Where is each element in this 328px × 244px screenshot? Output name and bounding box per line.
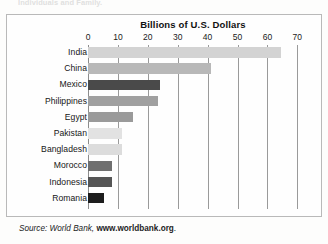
bar-philippines	[88, 96, 158, 106]
bar-row: Romania	[7, 191, 323, 207]
x-tick-label-10: 10	[113, 32, 122, 42]
category-label-romania: Romania	[0, 193, 87, 203]
category-label-egypt: Egypt	[0, 112, 87, 122]
bar-row: Pakistan	[7, 126, 323, 142]
chart-page: Individuals and Family. Billions of U.S.…	[0, 0, 328, 244]
bar-morocco	[88, 161, 112, 171]
bar-row: Egypt	[7, 110, 323, 126]
cropped-text-fragment: Individuals and Family.	[18, 0, 188, 7]
bar-pakistan	[88, 128, 122, 138]
bar-india	[88, 47, 281, 57]
bar-rows: IndiaChinaMexicoPhilippinesEgyptPakistan…	[7, 45, 323, 207]
bar-row: Mexico	[7, 77, 323, 93]
bar-row: China	[7, 61, 323, 77]
category-label-pakistan: Pakistan	[0, 128, 87, 138]
chart-frame: Billions of U.S. Dollars 010203040506070…	[6, 14, 322, 217]
x-tick-label-60: 60	[263, 32, 272, 42]
bar-row: Indonesia	[7, 175, 323, 191]
bar-row: Morocco	[7, 158, 323, 174]
source-label: Source: World Bank,	[19, 224, 94, 233]
x-tick-label-70: 70	[293, 32, 302, 42]
x-axis-tick-labels: 010203040506070	[7, 32, 323, 44]
source-period: .	[174, 224, 176, 233]
bar-mexico	[88, 80, 160, 90]
x-tick-label-0: 0	[86, 32, 91, 42]
bar-romania	[88, 193, 104, 203]
bar-china	[88, 63, 211, 73]
category-label-mexico: Mexico	[0, 79, 87, 89]
x-tick-label-20: 20	[143, 32, 152, 42]
x-tick-label-30: 30	[173, 32, 182, 42]
bar-row: Philippines	[7, 94, 323, 110]
category-label-philippines: Philippines	[0, 96, 87, 106]
bar-row: India	[7, 45, 323, 61]
source-note: Source: World Bank, www.worldbank.org.	[19, 224, 176, 233]
chart-title: Billions of U.S. Dollars	[7, 19, 323, 30]
bar-bangladesh	[88, 144, 122, 154]
category-label-morocco: Morocco	[0, 160, 87, 170]
plot-area: IndiaChinaMexicoPhilippinesEgyptPakistan…	[7, 45, 323, 215]
category-label-indonesia: Indonesia	[0, 177, 87, 187]
source-url-link[interactable]: www.worldbank.org	[96, 224, 173, 233]
category-label-bangladesh: Bangladesh	[0, 144, 87, 154]
x-tick-label-50: 50	[233, 32, 242, 42]
bar-row: Bangladesh	[7, 142, 323, 158]
category-label-india: India	[0, 47, 87, 57]
bar-indonesia	[88, 177, 112, 187]
x-tick-label-40: 40	[203, 32, 212, 42]
category-label-china: China	[0, 63, 87, 73]
bar-egypt	[88, 112, 133, 122]
